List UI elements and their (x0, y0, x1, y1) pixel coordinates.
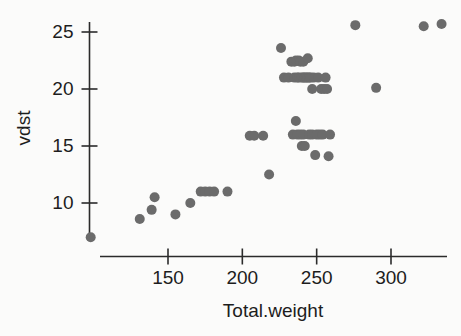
chart-canvas: 10152025 150200250300 Total.weight vdst (0, 0, 461, 336)
data-point (185, 198, 195, 208)
y-tick-label: 20 (52, 78, 73, 99)
data-point (147, 205, 157, 215)
y-tick-label: 25 (52, 21, 73, 42)
data-point (307, 84, 317, 94)
data-point (310, 150, 320, 160)
data-point (437, 19, 447, 29)
data-points-layer (86, 19, 447, 242)
x-axis-ticks: 150200250300 (152, 249, 407, 289)
data-point (419, 21, 429, 31)
data-point (303, 53, 313, 63)
x-tick-label: 150 (152, 267, 184, 288)
data-point (258, 131, 268, 141)
data-point (325, 130, 335, 140)
y-tick-label: 10 (52, 192, 73, 213)
scatter-plot-figure: 10152025 150200250300 Total.weight vdst (0, 0, 461, 336)
y-axis-ticks: 10152025 (52, 21, 97, 213)
x-tick-label: 300 (375, 267, 407, 288)
y-tick-label: 15 (52, 135, 73, 156)
data-point (222, 187, 232, 197)
data-point (135, 214, 145, 224)
data-point (86, 232, 96, 242)
data-point (170, 209, 180, 219)
data-point (276, 43, 286, 53)
data-point (371, 83, 381, 93)
x-tick-label: 200 (226, 267, 258, 288)
data-point (350, 20, 360, 30)
x-tick-label: 250 (301, 267, 333, 288)
data-point (324, 151, 334, 161)
data-point (209, 187, 219, 197)
data-point (322, 84, 332, 94)
data-point (264, 170, 274, 180)
data-point (300, 141, 310, 151)
data-point (249, 131, 259, 141)
data-point (291, 116, 301, 126)
y-axis-title: vdst (13, 110, 34, 146)
data-point (321, 73, 331, 83)
data-point (150, 192, 160, 202)
x-axis-title: Total.weight (223, 300, 324, 321)
